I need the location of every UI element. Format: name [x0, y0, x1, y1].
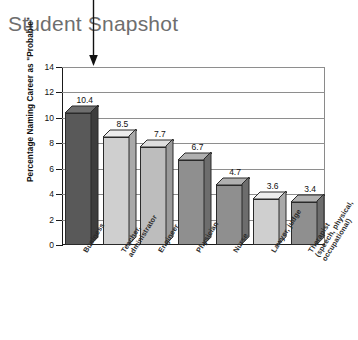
bar-value-label: 6.7 [178, 142, 218, 152]
y-tick-mark [56, 118, 62, 119]
bar-front-face [103, 137, 130, 245]
bar-value-label: 8.5 [102, 119, 142, 129]
y-tick-label: 2 [32, 215, 54, 225]
y-tick-mark [56, 169, 62, 170]
y-tick-label: 6 [32, 164, 54, 174]
bar-top-face [253, 192, 280, 199]
gridline [62, 92, 325, 93]
bar-value-label: 3.4 [290, 184, 330, 194]
bar[interactable]: 4.7 [216, 178, 243, 245]
y-tick-mark [56, 67, 62, 68]
bar-front-face [65, 113, 92, 245]
y-tick-label: 0 [32, 240, 54, 250]
bar-value-label: 7.7 [140, 129, 180, 139]
y-tick-mark [56, 194, 62, 195]
bar-top-face [178, 153, 205, 160]
y-tick-mark [56, 92, 62, 93]
y-tick-label: 8 [32, 138, 54, 148]
y-tick-label: 12 [32, 87, 54, 97]
bar[interactable]: 10.4 [65, 106, 92, 245]
y-tick-mark [56, 245, 62, 246]
bar-top-face [291, 195, 318, 202]
bar-value-label: 10.4 [65, 95, 105, 105]
bar-value-label: 4.7 [215, 167, 255, 177]
bar-top-face [140, 140, 167, 147]
plot-area: 02468101214 10.48.57.76.74.73.63.4 [62, 67, 325, 245]
bar-value-label: 3.6 [253, 181, 293, 191]
y-tick-label: 14 [32, 62, 54, 72]
bar[interactable]: 6.7 [178, 153, 205, 245]
y-tick-mark [56, 220, 62, 221]
bar-top-face [65, 106, 92, 113]
bar-front-face [178, 160, 205, 245]
gridline [62, 67, 325, 68]
y-tick-label: 4 [32, 189, 54, 199]
bar-top-face [216, 178, 243, 185]
y-tick-mark [56, 143, 62, 144]
y-tick-label: 10 [32, 113, 54, 123]
bar-top-face [103, 130, 130, 137]
bar[interactable]: 8.5 [103, 130, 130, 245]
